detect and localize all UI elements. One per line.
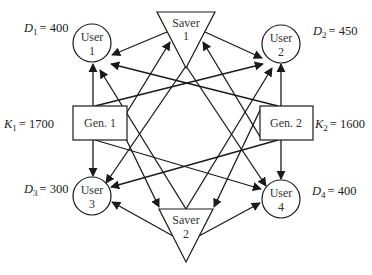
saver1-label-line1: Saver [172,16,199,30]
saver1-node: Saver 1 [157,12,215,68]
capacity-label-gen2: K2= 1600 [314,117,365,133]
saver2-node: Saver 2 [159,209,213,262]
edge-gen2-user3 [111,140,278,187]
user1-label-line1: User [81,30,104,44]
edge-gen1-user4 [95,140,261,189]
user4-node: User 4 [262,180,300,218]
saver2-label-line1: Saver [172,213,199,227]
demand-label-user1: D1= 400 [23,21,68,37]
network-diagram: Saver 1 Saver 2 User 1 User 2 User 3 Use… [0,0,372,275]
user3-node: User 3 [73,177,111,215]
user1-node: User 1 [73,24,111,62]
gen1-label: Gen. 1 [84,116,116,130]
demand-label-user2: D2= 450 [312,24,357,40]
user3-label-line2: 3 [89,197,95,211]
user2-label-line2: 2 [278,45,284,59]
capacity-label-gen1: K1= 1700 [3,117,54,133]
user1-label-line2: 1 [89,44,95,58]
user2-label-line1: User [270,31,293,45]
gen1-node: Gen. 1 [73,106,127,140]
edge-saver1-user1 [112,32,167,55]
user4-label-line2: 4 [278,200,284,214]
edge-gen2-user1 [111,64,278,106]
gen2-node: Gen. 2 [260,106,313,140]
user2-node: User 2 [262,25,300,63]
demand-label-user3: D3= 300 [23,182,68,198]
demand-label-user4: D4= 400 [311,184,356,200]
edge-saver1-user2 [205,32,262,58]
user4-label-line1: User [270,186,293,200]
saver1-label-line2: 1 [183,29,189,43]
gen2-label: Gen. 2 [270,116,302,130]
saver2-label-line2: 2 [183,227,189,241]
user3-label-line1: User [81,183,104,197]
